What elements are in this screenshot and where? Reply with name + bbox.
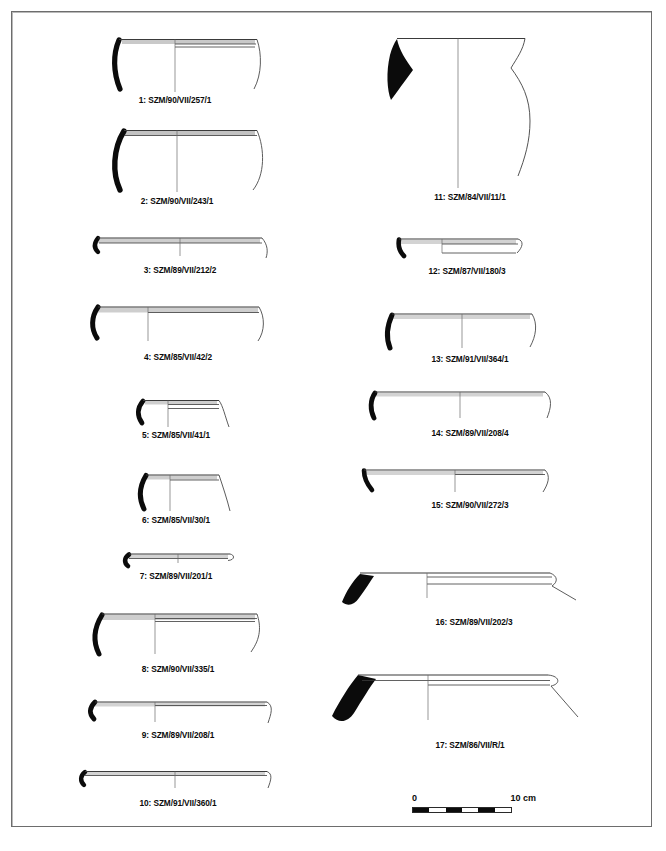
figure-12-label: 12: SZM/87/VII/180/3: [429, 266, 506, 276]
pottery-plate: 1: SZM/90/VII/257/1 2: SZM/90/VII/243/1 …: [0, 0, 666, 851]
figure-13: [380, 312, 560, 356]
figure-11: [380, 36, 540, 196]
figure-7-label: 7: SZM/89/VII/201/1: [140, 571, 212, 581]
scale-bar-segment: [413, 808, 429, 812]
figure-5: [133, 398, 243, 434]
figure-2: [105, 127, 275, 197]
figure-16-label: 16: SZM/89/VII/202/3: [436, 617, 513, 627]
figure-4: [88, 305, 278, 347]
figure-6: [135, 473, 245, 517]
figure-3: [90, 236, 280, 262]
scale-bar-segment: [478, 808, 494, 812]
figure-9: [85, 700, 285, 730]
figure-17: [320, 672, 590, 740]
figure-1-label: 1: SZM/90/VII/257/1: [139, 95, 211, 105]
figure-12: [390, 237, 550, 265]
figure-14-label: 14: SZM/89/VII/208/4: [432, 428, 509, 438]
scale-bar: 0 10 cm: [412, 793, 536, 819]
figure-17-label: 17: SZM/86/VII/R/1: [435, 740, 504, 750]
figure-2-label: 2: SZM/90/VII/243/1: [141, 196, 213, 206]
scale-bar-max-label: 10 cm: [510, 793, 536, 803]
figure-14: [365, 390, 565, 426]
figure-16: [332, 570, 582, 618]
figure-15: [355, 468, 575, 500]
figure-8: [85, 612, 275, 662]
figure-3-label: 3: SZM/89/VII/212/2: [144, 265, 216, 275]
scale-bar-zero-label: 0: [412, 793, 417, 803]
scale-bar-segment: [462, 808, 478, 812]
scale-bar-segment: [429, 808, 445, 812]
figure-5-label: 5: SZM/85/VII/41/1: [142, 430, 210, 440]
scale-bar-labels: 0 10 cm: [412, 793, 536, 805]
figure-11-label: 11: SZM/84/VII/11/1: [434, 192, 505, 202]
scale-bar-segment: [495, 808, 511, 812]
figure-8-label: 8: SZM/90/VII/335/1: [142, 664, 214, 674]
figure-1: [105, 36, 275, 96]
figure-6-label: 6: SZM/85/VII/30/1: [142, 515, 210, 525]
scale-bar-segment: [446, 808, 462, 812]
figure-10-label: 10: SZM/91/VII/360/1: [140, 798, 217, 808]
figure-13-label: 13: SZM/91/VII/364/1: [432, 354, 509, 364]
figure-15-label: 15: SZM/90/VII/272/3: [432, 500, 509, 510]
figure-4-label: 4: SZM/85/VII/42/2: [144, 352, 212, 362]
figure-10: [75, 768, 285, 796]
scale-bar-track: [412, 807, 512, 813]
figure-9-label: 9: SZM/89/VII/208/1: [142, 730, 214, 740]
